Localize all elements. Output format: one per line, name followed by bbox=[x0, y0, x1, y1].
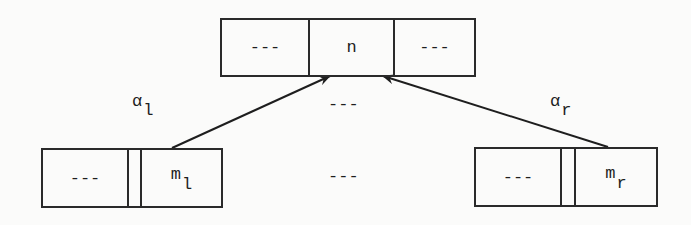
top-node-left-field: --- bbox=[222, 20, 308, 75]
left-node-subscript: l bbox=[182, 175, 192, 194]
middle-ellipsis-lower: --- bbox=[328, 167, 359, 186]
left-edge-label: αl bbox=[132, 92, 153, 111]
top-node: --- n --- bbox=[220, 18, 476, 77]
top-node-left-text: --- bbox=[250, 38, 281, 57]
middle-ellipsis-upper: --- bbox=[328, 95, 359, 114]
left-node: --- ml bbox=[41, 148, 223, 208]
right-edge-label: αr bbox=[550, 92, 571, 111]
left-node-name-field: ml bbox=[140, 150, 221, 206]
right-node-left-field: --- bbox=[476, 149, 560, 205]
top-node-right-field: --- bbox=[393, 20, 474, 75]
left-edge-subscript: l bbox=[143, 101, 153, 120]
right-node-spacer-field bbox=[560, 149, 574, 205]
left-node-spacer-field bbox=[127, 150, 140, 206]
left-node-label: m bbox=[171, 165, 181, 184]
top-node-label: n bbox=[346, 38, 356, 57]
right-node: --- mr bbox=[474, 147, 658, 207]
right-node-name-field: mr bbox=[574, 149, 656, 205]
alpha-symbol: α bbox=[132, 92, 142, 111]
left-node-left-text: --- bbox=[70, 169, 101, 188]
alpha-symbol: α bbox=[550, 92, 560, 111]
right-edge-subscript: r bbox=[561, 101, 571, 120]
top-node-right-text: --- bbox=[419, 38, 450, 57]
arrow-right-to-top bbox=[383, 76, 608, 147]
right-node-label: m bbox=[605, 164, 615, 183]
arrow-left-to-top bbox=[172, 76, 330, 148]
right-node-left-text: --- bbox=[503, 168, 534, 187]
left-node-left-field: --- bbox=[43, 150, 127, 206]
right-node-subscript: r bbox=[617, 174, 627, 193]
top-node-center-field: n bbox=[308, 20, 393, 75]
